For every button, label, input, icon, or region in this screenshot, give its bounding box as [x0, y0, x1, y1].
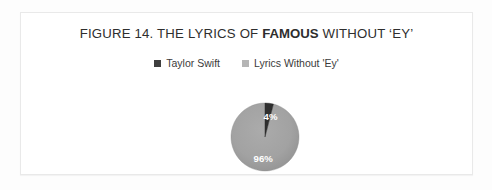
legend-swatch-icon: [242, 60, 249, 67]
chart-title-part2: WITHOUT ‘EY’: [319, 26, 414, 41]
pie-label-lyrics-without-ey: 96%: [254, 153, 274, 164]
legend-swatch-icon: [154, 60, 161, 67]
legend-item-label: Taylor Swift: [166, 57, 220, 69]
legend-item-taylor-swift[interactable]: Taylor Swift: [154, 57, 220, 69]
chart-frame: FIGURE 14. THE LYRICS OF FAMOUS WITHOUT …: [20, 12, 473, 175]
chart-title-emphasis: FAMOUS: [262, 26, 318, 41]
chart-title: FIGURE 14. THE LYRICS OF FAMOUS WITHOUT …: [21, 26, 472, 42]
figure-page: FIGURE 14. THE LYRICS OF FAMOUS WITHOUT …: [0, 0, 492, 190]
chart-legend: Taylor Swift Lyrics Without 'Ey': [21, 57, 472, 69]
chart-title-part1: FIGURE 14. THE LYRICS OF: [80, 26, 263, 41]
pie-chart-svg: 4% 96%: [211, 91, 319, 175]
legend-item-lyrics-without-ey[interactable]: Lyrics Without 'Ey': [242, 57, 339, 69]
pie-label-taylor-swift: 4%: [264, 111, 278, 122]
legend-item-label: Lyrics Without 'Ey': [254, 57, 339, 69]
pie-chart: 4% 96%: [211, 91, 319, 175]
